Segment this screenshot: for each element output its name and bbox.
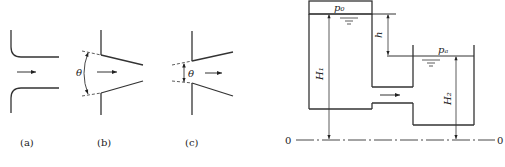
water-surface-symbol-upper [340, 18, 358, 24]
pressure-label-pa: pₐ [438, 44, 448, 55]
figure-a-rounded-inlet [11, 30, 59, 113]
datum-label-left: 0 [285, 135, 291, 146]
pressure-label-p0: p₀ [334, 2, 344, 13]
figure-b-converging-nozzle [82, 30, 143, 115]
caption-c: (c) [185, 137, 199, 148]
angle-label-b: θ [76, 67, 82, 78]
water-surface-symbol-lower [422, 60, 440, 66]
figure-c-diverging-nozzle [172, 31, 233, 115]
head-label-h: h [373, 32, 384, 38]
dimension-lines [329, 15, 456, 139]
angle-label-c: θ [188, 68, 194, 79]
caption-a: (a) [20, 137, 34, 148]
height-label-h2: H₂ [442, 92, 453, 106]
diagram-canvas: (a) θ (b) θ (c) [0, 0, 505, 167]
datum-label-right: 0 [497, 135, 503, 146]
caption-b: (b) [97, 137, 111, 148]
height-label-h1: H₁ [314, 67, 325, 81]
tank-system [309, 1, 474, 125]
